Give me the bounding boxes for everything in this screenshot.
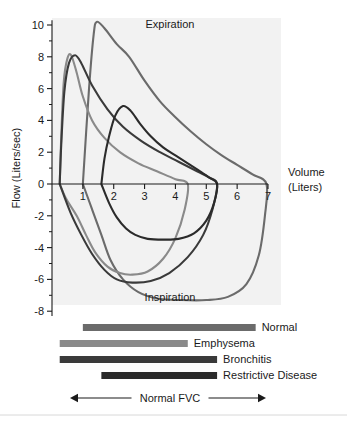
fvc-arrowhead-left [70,394,78,402]
y-tick-label: -6 [34,273,44,285]
fvc-arrowhead-right [258,394,266,402]
expiration-label: Expiration [146,18,195,30]
x-tick-label: 5 [203,190,209,202]
normal-fvc-indicator: Normal FVC [70,392,266,404]
y-axis-title: Flow (Liters/sec) [10,128,22,209]
y-tick-label: 4 [38,114,44,126]
x-axis-title-line1: Volume [288,166,325,178]
x-tick-label: 1 [80,190,86,202]
legend-item: Normal [83,321,297,333]
flow-volume-chart: 1086420-2-4-6-81234567 Flow (Liters/sec)… [0,0,347,424]
legend-bar-bronchitis [60,356,217,363]
legend-bar-normal [83,324,256,331]
plot-area [52,18,281,305]
x-tick-label: 4 [172,190,178,202]
x-axis-title-line2: (Liters) [288,181,322,193]
y-tick-label: 10 [32,19,44,31]
x-tick-label: 7 [265,190,271,202]
legend-item: Restrictive Disease [101,369,317,381]
y-tick-label: -4 [34,242,44,254]
x-tick-label: 2 [111,190,117,202]
x-tick-label: 3 [142,190,148,202]
normal-fvc-label: Normal FVC [140,392,201,404]
flow-volume-loop-figure: 1086420-2-4-6-81234567 Flow (Liters/sec)… [0,0,347,424]
legend-label-normal: Normal [262,321,297,333]
inspiration-label: Inspiration [145,291,196,303]
legend-label-restrictive-disease: Restrictive Disease [223,369,317,381]
y-tick-label: 2 [38,146,44,158]
legend: NormalEmphysemaBronchitisRestrictive Dis… [60,321,318,381]
legend-bar-restrictive-disease [101,372,217,379]
legend-label-emphysema: Emphysema [194,337,256,349]
legend-item: Bronchitis [60,353,272,365]
y-tick-label: -2 [34,210,44,222]
legend-label-bronchitis: Bronchitis [223,353,272,365]
y-tick-label: 0 [38,178,44,190]
legend-item: Emphysema [60,337,256,349]
y-tick-label: 8 [38,51,44,63]
plot-background [52,18,281,305]
y-tick-label: -8 [34,305,44,317]
legend-bar-emphysema [60,340,188,347]
x-tick-label: 6 [234,190,240,202]
y-tick-label: 6 [38,83,44,95]
